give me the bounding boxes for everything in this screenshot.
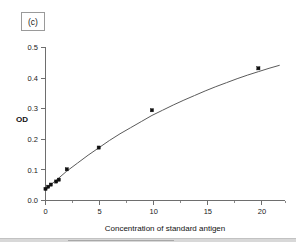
data-point <box>150 109 153 112</box>
x-axis-title: Concentration of standard antigen <box>105 224 226 233</box>
data-points-group <box>44 67 260 191</box>
y-axis-title: OD <box>16 115 28 124</box>
x-tick-label: 5 <box>98 207 102 216</box>
bottom-border-accent <box>68 240 174 241</box>
figure-panel-c: (c) 0.0 0.1 0.2 0.3 0.4 0.5 OD <box>0 0 296 242</box>
data-point <box>257 67 260 70</box>
y-tick-label: 0.2 <box>28 135 38 144</box>
x-tick-label: 20 <box>258 207 266 216</box>
fitted-curve <box>46 65 280 190</box>
y-tick-label: 0.1 <box>28 166 38 175</box>
data-point <box>49 183 52 186</box>
x-tick-label: 15 <box>204 207 212 216</box>
x-axis-ticks <box>46 201 262 206</box>
y-tick-label: 0.4 <box>28 74 38 83</box>
data-point <box>57 178 60 181</box>
y-tick-label: 0.0 <box>28 196 38 205</box>
chart-plot-area: 0.0 0.1 0.2 0.3 0.4 0.5 OD 0 5 <box>0 0 296 242</box>
x-tick-label: 0 <box>43 207 47 216</box>
y-tick-label: 0.3 <box>28 104 38 113</box>
y-axis-tick-labels: 0.0 0.1 0.2 0.3 0.4 0.5 <box>28 43 38 205</box>
y-axis-ticks <box>41 48 46 201</box>
data-point <box>97 146 100 149</box>
y-tick-label: 0.5 <box>28 43 38 52</box>
x-axis-tick-labels: 0 5 10 15 20 <box>43 207 266 216</box>
data-point <box>65 168 68 171</box>
x-tick-label: 10 <box>150 207 158 216</box>
